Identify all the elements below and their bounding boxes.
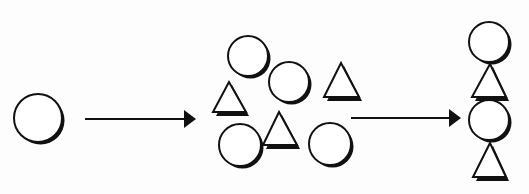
arrow-1-icon (85, 110, 196, 128)
diagram-canvas (0, 0, 529, 194)
triangle-shape (213, 82, 249, 116)
circle-shape (469, 100, 512, 143)
arrow-2-icon (351, 109, 461, 127)
circle-shape (309, 123, 354, 168)
triangle-shape (472, 64, 509, 101)
triangle-shape (473, 143, 509, 181)
circle-shape (219, 124, 264, 169)
triangle-shape (324, 63, 362, 101)
circle-shape (269, 62, 312, 105)
circle-shape (469, 22, 512, 65)
assembly-diagram (0, 0, 529, 194)
stage-disordered-mixture (213, 36, 362, 169)
circle-shape (14, 94, 65, 145)
circle-shape (228, 36, 271, 79)
triangle-shape (263, 112, 300, 149)
stage-single-unit (14, 94, 65, 145)
stage-ordered-stack (469, 22, 512, 181)
